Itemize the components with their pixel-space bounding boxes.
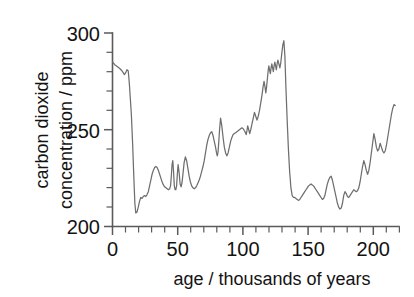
- chart-canvas: 300 250 200 0 50 100 150 200 age / thous…: [0, 0, 414, 297]
- x-tick-label-150: 150: [291, 238, 324, 260]
- x-tick-label-50: 50: [167, 238, 189, 260]
- co2-vs-age-chart: 300 250 200 0 50 100 150 200 age / thous…: [0, 0, 414, 297]
- x-axis-ticks: [113, 227, 400, 236]
- co2-data-line: [113, 41, 396, 213]
- y-axis-title-line2: concentration / ppm: [56, 51, 76, 209]
- x-tick-label-100: 100: [226, 238, 259, 260]
- y-axis-title-line1: carbon dioxide: [32, 71, 52, 188]
- y-tick-label-300: 300: [67, 23, 100, 45]
- x-tick-label-0: 0: [107, 238, 118, 260]
- y-axis-ticks: [104, 33, 113, 227]
- x-axis-title: age / thousands of years: [173, 269, 370, 289]
- x-tick-label-200: 200: [357, 238, 390, 260]
- y-tick-label-200: 200: [67, 216, 100, 238]
